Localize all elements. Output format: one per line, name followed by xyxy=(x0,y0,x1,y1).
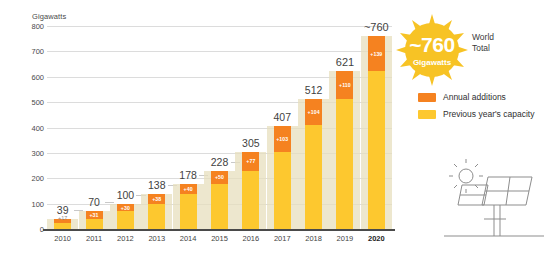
bar[interactable] xyxy=(305,99,322,229)
legend-label-annual-additions: Annual additions xyxy=(443,92,506,102)
bar[interactable] xyxy=(368,36,385,229)
y-axis-tick-label: 300 xyxy=(24,148,44,157)
callout-side-line2: Total xyxy=(472,43,494,54)
y-axis-tick-label: 500 xyxy=(24,98,44,107)
bar[interactable] xyxy=(336,71,353,229)
bar-total-label: 100 xyxy=(117,189,135,201)
annual-addition-badge: +110 xyxy=(339,82,351,88)
solar-panel-icon xyxy=(444,177,544,236)
x-axis-baseline xyxy=(43,229,395,231)
legend-swatch-annual-additions xyxy=(418,93,436,102)
bar-total-label: 407 xyxy=(273,111,291,123)
annual-addition-badge: +50 xyxy=(215,174,224,180)
x-axis-tick-label: 2016 xyxy=(243,234,260,243)
plot-area: 8007006005004003002001000 39+1770+31100+… xyxy=(47,26,392,229)
legend-item-previous-capacity: Previous year's capacity xyxy=(418,109,534,119)
x-axis-tick-label: 2017 xyxy=(274,234,291,243)
legend-item-annual-additions: Annual additions xyxy=(418,92,534,102)
y-axis-tick-label: 0 xyxy=(24,225,44,234)
bar-segment-previous-capacity xyxy=(148,204,165,229)
bar-segment-previous-capacity xyxy=(305,125,322,229)
callout-unit: Gigawatts xyxy=(396,58,468,67)
bar-segment-previous-capacity xyxy=(242,171,259,229)
annual-addition-badge: +30 xyxy=(121,205,130,211)
legend-label-previous-capacity: Previous year's capacity xyxy=(443,109,534,119)
x-axis-tick-label: 2015 xyxy=(211,234,228,243)
sun-icon xyxy=(449,159,483,193)
y-axis-tick-label: 200 xyxy=(24,174,44,183)
x-axis-tick-label: 2018 xyxy=(305,234,322,243)
x-axis-tick-label: 2013 xyxy=(148,234,165,243)
annual-addition-badge: +104 xyxy=(308,109,320,115)
y-axis-tick-label: 400 xyxy=(24,123,44,132)
bar-series: 39+1770+31100+30138+38178+40228+50305+77… xyxy=(47,26,392,229)
annual-addition-badge: +139 xyxy=(370,51,382,57)
annual-addition-badge: +40 xyxy=(184,186,193,192)
callout-side-line1: World xyxy=(472,32,494,43)
callout-value: ~760 xyxy=(396,34,468,55)
y-axis-tick-label: 800 xyxy=(24,22,44,31)
annual-addition-badge: +17 xyxy=(58,215,67,221)
bar-segment-previous-capacity xyxy=(117,211,134,229)
annual-addition-badge: +103 xyxy=(276,136,288,142)
annual-addition-badge: +31 xyxy=(89,212,98,218)
annual-addition-badge: +77 xyxy=(246,158,255,164)
x-axis-tick-label: 2019 xyxy=(337,234,354,243)
y-axis-tick-label: 700 xyxy=(24,47,44,56)
x-axis-tick-label: 2020 xyxy=(368,234,385,243)
x-axis-tick-label: 2011 xyxy=(86,234,102,243)
bar-total-label: ~760 xyxy=(364,21,389,33)
bar-segment-previous-capacity xyxy=(336,99,353,229)
bar-total-label: 70 xyxy=(88,196,100,208)
bar-segment-previous-capacity xyxy=(368,71,385,229)
bar-total-label: 228 xyxy=(211,156,229,168)
bar-total-label: 305 xyxy=(242,137,260,149)
bar-segment-previous-capacity xyxy=(211,184,228,229)
annual-addition-badge: +38 xyxy=(152,196,161,202)
x-axis-tick-label: 2012 xyxy=(117,234,134,243)
callout-side-text: World Total xyxy=(472,32,494,53)
bar-segment-previous-capacity xyxy=(86,219,103,229)
bar-segment-previous-capacity xyxy=(274,152,291,229)
y-axis-tick-label: 600 xyxy=(24,72,44,81)
bar-total-label: 621 xyxy=(336,56,354,68)
world-total-callout: ~760 Gigawatts xyxy=(396,14,468,86)
chart-legend: Annual additions Previous year's capacit… xyxy=(418,92,534,127)
chart-root: Gigawatts 8007006005004003002001000 39+1… xyxy=(0,0,549,259)
x-axis-tick-label: 2014 xyxy=(180,234,197,243)
solar-panel-illustration xyxy=(444,158,544,244)
bar-total-label: 512 xyxy=(305,84,323,96)
x-axis-tick-label: 2010 xyxy=(54,234,71,243)
y-axis-tick-label: 100 xyxy=(24,199,44,208)
bar-total-label: 138 xyxy=(148,179,166,191)
y-axis-unit-label: Gigawatts xyxy=(32,12,66,21)
bar-total-label: 178 xyxy=(179,169,197,181)
legend-swatch-previous-capacity xyxy=(418,110,436,119)
bar-segment-previous-capacity xyxy=(180,194,197,229)
